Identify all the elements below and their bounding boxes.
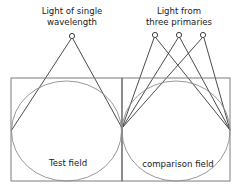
right-source-caption-line2: three primaries <box>146 17 213 27</box>
figure-root: Light of single wavelength Light from th… <box>0 0 245 193</box>
ray-primary1-to-center-node <box>122 38 154 128</box>
ray-single-to-center-node <box>73 39 122 128</box>
right-source-caption-line1: Light from <box>157 6 201 16</box>
ray-primary3-to-right-node <box>204 38 230 130</box>
test-field-label: Test field <box>48 158 87 168</box>
primary-source-2-icon <box>176 32 181 37</box>
left-source-caption-line2: wavelength <box>47 17 97 27</box>
primary-source-1-icon <box>152 32 157 37</box>
comparison-field-label: comparison field <box>142 159 213 169</box>
ray-primary2-to-right-node <box>180 38 230 130</box>
ray-primary2-to-center-node <box>122 38 178 128</box>
ray-primary1-to-right-node <box>156 38 230 130</box>
primary-source-3-icon <box>200 32 205 37</box>
left-source-caption-line1: Light of single <box>42 6 103 16</box>
single-wavelength-source-icon <box>69 33 74 38</box>
ray-single-to-left-node <box>11 39 71 131</box>
diagram-canvas: Light of single wavelength Light from th… <box>0 0 245 193</box>
